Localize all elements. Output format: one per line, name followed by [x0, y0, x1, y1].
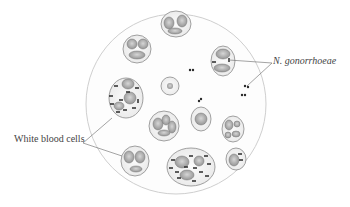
white-blood-cell-infected: [211, 46, 235, 76]
label-n-gonorrhoeae: N. gonorrhoeae: [273, 55, 336, 66]
white-blood-cell: [123, 35, 151, 63]
white-blood-cell: [121, 146, 149, 176]
white-blood-cell-infected: [109, 78, 143, 118]
small-cell: [161, 77, 179, 95]
white-blood-cell: [191, 107, 211, 131]
white-blood-cell: [161, 11, 191, 37]
white-blood-cell: [222, 116, 244, 142]
white-blood-cell-infected: [167, 148, 215, 186]
microscope-field-illustration: [0, 0, 350, 207]
white-blood-cell: [149, 111, 179, 141]
white-blood-cell-infected: [226, 148, 246, 170]
label-white-blood-cells: White blood cells: [14, 133, 85, 144]
